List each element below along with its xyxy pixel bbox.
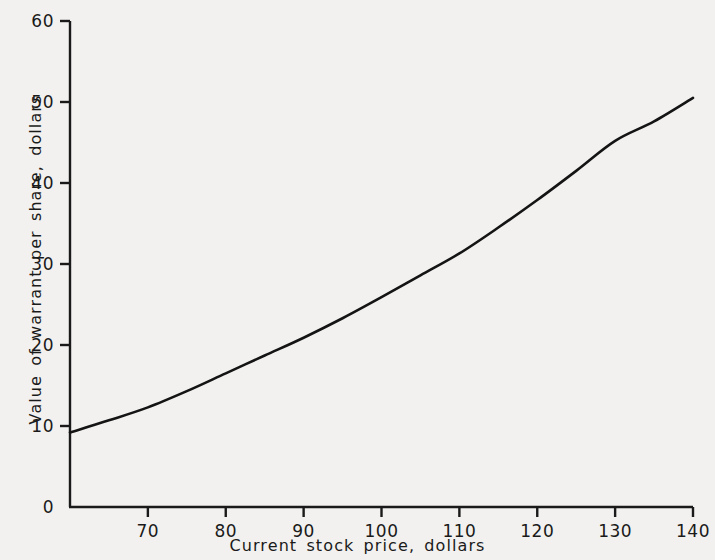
chart-plot-area (0, 0, 715, 560)
chart-figure: 0102030405060 708090100110120130140 Valu… (0, 0, 715, 560)
axis-lines (69, 21, 693, 507)
y-axis-title: Value of warrant per share, dollars (26, 95, 45, 425)
y-axis-title-container: Value of warrant per share, dollars (26, 0, 45, 520)
y-axis-ticks (60, 21, 70, 426)
x-axis-ticks (148, 507, 693, 517)
x-axis-title: Current stock price, dollars (0, 536, 715, 555)
warrant-value-curve (70, 98, 693, 433)
